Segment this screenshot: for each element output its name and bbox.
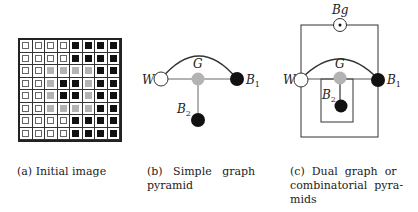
node-bg-dot: [339, 24, 342, 27]
node-w: [294, 73, 308, 87]
label-b2: B2: [321, 88, 336, 104]
panel-c-dual-graph: Bg W G B1 B2 (c) Dual graph or combinato…: [0, 0, 418, 212]
node-b2: [335, 100, 348, 113]
caption-c: (c) Dual graph or combinatorial pyra- mi…: [290, 165, 410, 207]
label-w: W: [283, 73, 297, 87]
label-b1: B1: [386, 73, 401, 89]
node-b1: [371, 73, 385, 87]
node-g: [334, 72, 347, 85]
label-bg: Bg: [331, 3, 349, 17]
label-g: G: [335, 57, 345, 71]
